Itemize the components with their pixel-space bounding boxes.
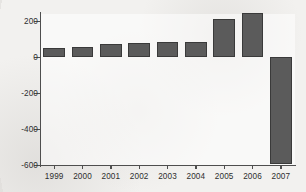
x-axis-tick-label: 2001 xyxy=(102,172,121,181)
x-axis-tick-label: 2004 xyxy=(187,172,206,181)
y-axis-tick-label: -400 xyxy=(21,125,38,134)
x-axis-tick xyxy=(82,165,83,169)
x-axis-tick xyxy=(195,165,196,169)
x-axis-tick xyxy=(167,165,168,169)
x-axis-tick-label: 2000 xyxy=(73,172,92,181)
y-axis-tick-label: -600 xyxy=(21,161,38,170)
x-axis-tick xyxy=(252,165,253,169)
bar-2007 xyxy=(270,57,292,164)
x-axis-tick-label: 2005 xyxy=(215,172,234,181)
bar-2001 xyxy=(100,44,122,57)
x-axis-tick xyxy=(139,165,140,169)
x-axis-tick-label: 2007 xyxy=(272,172,291,181)
x-axis-tick-label: 2006 xyxy=(243,172,262,181)
x-axis-tick-label: 2003 xyxy=(158,172,177,181)
bar-2000 xyxy=(72,47,94,57)
x-axis-tick xyxy=(110,165,111,169)
bar-2004 xyxy=(185,42,207,57)
x-axis-tick-label: 2002 xyxy=(130,172,149,181)
x-axis-tick-label: 1999 xyxy=(45,172,64,181)
y-axis-line xyxy=(40,12,41,167)
x-axis-tick xyxy=(280,165,281,169)
bar-chart-figure: 2000-200-400-600 19992000200120022003200… xyxy=(0,0,306,192)
bar-2005 xyxy=(213,19,235,57)
bar-1999 xyxy=(43,48,65,57)
y-axis-tick-label: 200 xyxy=(24,17,38,26)
x-axis-tick xyxy=(224,165,225,169)
x-axis-tick xyxy=(54,165,55,169)
y-axis-tick-label: 0 xyxy=(33,53,38,62)
y-axis-tick-label: -200 xyxy=(21,89,38,98)
bar-2003 xyxy=(157,42,179,57)
bar-2002 xyxy=(128,43,150,57)
bar-2006 xyxy=(242,13,264,57)
